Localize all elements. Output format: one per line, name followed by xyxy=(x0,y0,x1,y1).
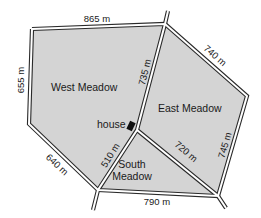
east-meadow-label: East Meadow xyxy=(158,102,222,114)
distance-top: 865 m xyxy=(84,13,110,24)
south-meadow-label-line1: South xyxy=(118,158,146,170)
house-label: house xyxy=(97,118,126,130)
west-meadow-label: West Meadow xyxy=(51,81,118,93)
distance-left-upper: 655 m xyxy=(15,67,26,93)
south-meadow-label-line2: Meadow xyxy=(112,170,152,182)
meadow-map: West Meadow East Meadow South Meadow hou… xyxy=(0,0,261,218)
distance-bottom: 790 m xyxy=(144,196,170,207)
